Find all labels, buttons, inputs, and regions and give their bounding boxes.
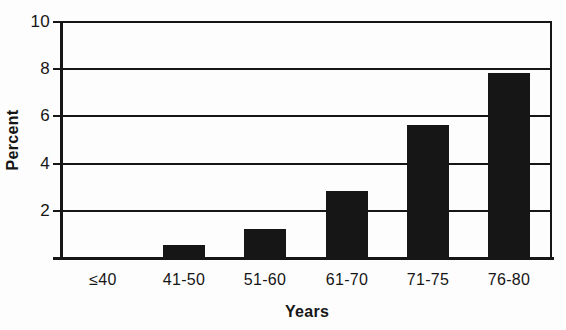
x-tick-label-61-70: 61-70: [306, 271, 388, 289]
y-tick-label-4: 4: [0, 154, 50, 174]
x-axis-line: [53, 257, 554, 260]
gridline-2: [53, 210, 552, 212]
gridline-8: [53, 68, 552, 70]
y-tick-label-2: 2: [0, 201, 50, 221]
gridline-6: [53, 115, 552, 117]
x-tick-label-71-75: 71-75: [387, 271, 469, 289]
gridline-10: [53, 21, 552, 23]
bar-41-50: [163, 245, 205, 257]
y-tick-label-10: 10: [0, 12, 50, 32]
bar-61-70: [326, 191, 368, 257]
bar-chart-figure: Percent 246810≤4041-5051-6061-7071-7576-…: [0, 0, 566, 330]
gridline-4: [53, 163, 552, 165]
x-tick-label-41-50: 41-50: [143, 271, 225, 289]
x-tick-label-76-80: 76-80: [468, 271, 550, 289]
x-tick-label-≤40: ≤40: [62, 271, 144, 289]
bar-76-80: [488, 73, 530, 257]
y-tick-label-6: 6: [0, 106, 50, 126]
plot-right-border: [550, 21, 552, 259]
bar-71-75: [407, 125, 449, 257]
x-tick-label-51-60: 51-60: [224, 271, 306, 289]
plot-area: 246810≤4041-5051-6061-7071-7576-80: [62, 21, 552, 259]
x-axis-title: Years: [62, 303, 552, 321]
y-tick-label-8: 8: [0, 59, 50, 79]
y-axis-line: [60, 21, 63, 259]
bar-51-60: [244, 229, 286, 257]
